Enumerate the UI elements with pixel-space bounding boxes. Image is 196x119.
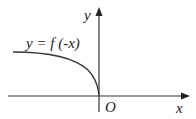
coordinate-plot <box>0 0 196 119</box>
y-axis-arrow-icon <box>96 7 103 16</box>
origin-label: O <box>105 100 116 115</box>
function-curve <box>13 52 99 95</box>
x-axis-label: x <box>176 101 183 116</box>
x-axis-arrow-icon <box>181 93 190 100</box>
curve-label: y = f (-x) <box>26 36 80 51</box>
y-axis-label: y <box>84 8 91 23</box>
